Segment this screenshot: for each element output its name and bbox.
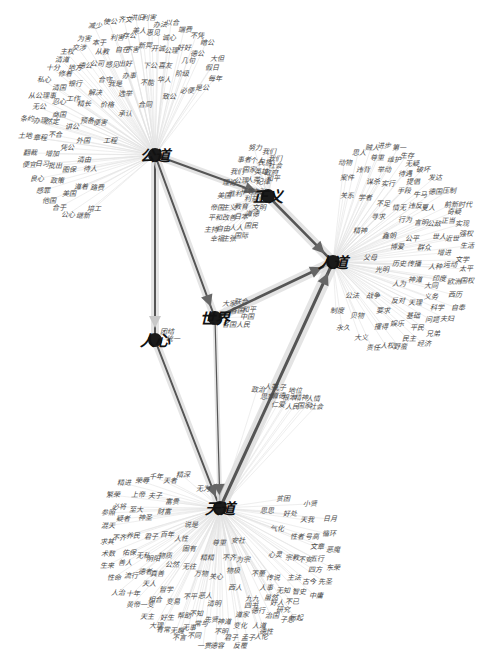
leaf-node-label: 进步 [377,142,392,150]
leaf-node-label: 不足 [376,200,391,208]
leaf-node-label: 天主 [140,613,155,621]
leaf-node-label: 商国 [52,111,67,119]
leaf-node-label: 大义 [354,334,369,342]
leaf-node-label: 思人 [352,149,366,157]
hub-node-tiandao[interactable]: 天道 [205,500,238,518]
leaf-node-label: 假日 [205,64,220,72]
leaf-node-label: 阶级 [175,70,190,78]
leaf-node-label: 百年 [160,531,175,539]
leaf-node-label: 章程 [33,134,48,142]
leaf-node-label: 财富 [157,508,172,516]
leaf-node-label: 群众 [417,244,432,252]
hub-node-zhengyi[interactable]: 正义 [253,188,285,206]
leaf-node-label: 清国 [52,84,67,92]
leaf-node-label: 奇疑 [447,208,462,216]
leaf-node-label: 神道 [217,618,232,626]
leaf-node-label: 东荣 [326,564,341,572]
leaf-node-label: 使公 [103,18,118,26]
leaf-node-label: 破坏 [416,166,432,174]
leaf-node-label: 天人 [142,580,156,588]
leaf-node-label: 生来 [100,562,115,570]
leaf-node-label: 增加 [45,150,60,158]
leaf-node-label: 野蛮 [393,343,408,351]
leaf-node-label: 夏人 [421,204,435,212]
leaf-node-label: 娱乐 [390,320,405,328]
leaf-node-label: 人事 [259,584,274,592]
leaf-node-label: 德性 [259,628,274,636]
hub-edge-gongdao-shijie [155,155,215,318]
leaf-node-label: 美人 [132,27,146,35]
leaf-node-label: 恶人 [198,592,212,600]
leaf-node-label: 说是 [184,521,199,529]
leaf-node-label: 上帝 [131,491,146,499]
leaf-edges-layer [24,18,466,646]
leaf-node-label: 继新 [76,212,91,220]
leaf-node-label: 公敌 [427,220,442,228]
leaf-node-label: 清明 [207,600,222,608]
leaf-node-label: 人性 [174,535,189,543]
leaf-node-label: 违背 [356,166,371,174]
leaf-node-label: 孔子 [272,384,287,392]
leaf-node-label: 养民 [126,532,141,540]
leaf-node-label: 善人 [118,559,132,567]
leaf-node-label: 正当 [441,217,456,225]
leaf-node-label: 不能 [140,79,155,87]
leaf-node-label: 实现 [455,220,470,228]
leaf-node-label: 循环 [322,530,337,538]
leaf-node-label: 待遇 [398,170,413,178]
leaf-node-label: 忍心 [52,98,67,106]
leaf-node-label: 义务 [424,293,439,301]
leaf-node-label: 历史 [392,260,407,268]
hub-label: 人心 [140,332,171,350]
leaf-node-label: 无为 [196,485,211,493]
leaf-node-label: 不言 [172,634,187,642]
leaf-node-label: 大同 [424,282,439,290]
leaf-node-label: 四方 [308,566,323,574]
leaf-node-label: 真善 [150,570,165,578]
leaf-node-label: 暗公 [200,39,215,47]
leaf-node-label: 纪律 [256,178,271,186]
leaf-node-label: 繁荣 [106,491,121,499]
leaf-node-label: 每年 [208,75,223,83]
leaf-node-label: 选举 [118,90,133,98]
leaf-node-label: 联合 [234,298,249,306]
leaf-node-label: 气化 [270,525,285,533]
leaf-node-label: 平和 [208,214,223,222]
leaf-node-label: 政策 [50,177,65,185]
leaf-node-label: 万物 [194,570,209,578]
leaf-node-label: 必便 [180,87,195,95]
leaf-node-label: 工程 [103,137,118,145]
leaf-node-label: 银行 [68,80,83,88]
leaf-node-label: 谋杀 [366,178,381,186]
leaf-node-label: 为宗 [236,556,251,564]
leaf-node-label: 生活 [460,242,475,250]
leaf-node-label: 清道 [55,56,70,64]
leaf-node-label: 德国 [428,188,443,196]
leaf-node-label: 动物 [338,159,353,167]
leaf-node-label: 后起 [289,614,304,622]
leaf-node-label: 日月 [323,515,338,523]
leaf-node-label: 不齐 [112,534,127,542]
leaf-node-label: 私心 [37,76,52,84]
hub-node-renxin[interactable]: 人心 [140,332,171,350]
hub-node-shijie[interactable]: 世界 [200,310,232,328]
leaf-node-label: 有常 [156,626,171,634]
hub-node-rendao[interactable]: 人道 [318,254,351,272]
leaf-node-label: 号高 [305,533,320,541]
leaf-node-label: 贫困 [276,495,291,503]
hub-node-gongdao[interactable]: 公道 [140,147,173,165]
leaf-node-label: 仁爱 [271,401,286,409]
leaf-node-label: 不合 [48,131,63,139]
hub-label: 天道 [205,500,238,518]
leaf-node-label: 四书 [244,602,259,610]
leaf-node-label: 文章 [310,543,325,551]
hub-label: 世界 [200,310,232,328]
leaf-node-label: 是公 [195,84,210,92]
leaf-node-label: 下公 [143,62,158,70]
leaf-node-label: 问题 [425,316,441,324]
leaf-node-label: 十年 [126,590,141,598]
leaf-node-label: 责任 [366,344,381,352]
leaf-node-label: 天理 [408,299,423,307]
leaf-node-label: 无私 [136,552,150,560]
leaf-node-label: 从教 [95,48,110,56]
